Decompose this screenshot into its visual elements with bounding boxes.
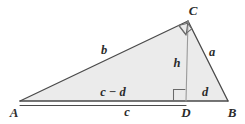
segment-label-c: c (124, 106, 130, 119)
vertex-label-b: B (228, 106, 237, 119)
altitude-label-h: h (174, 57, 181, 70)
segment-label-c-minus-d: c − d (100, 86, 126, 99)
segment-label-d: d (202, 86, 208, 99)
side-label-b: b (101, 44, 107, 57)
side-label-a: a (209, 46, 215, 59)
geometry-diagram: A B C D b a h c − d c d (0, 0, 245, 124)
vertex-label-c: C (189, 4, 198, 17)
triangle-figure-svg (0, 0, 245, 124)
vertex-label-d: D (181, 106, 190, 119)
vertex-label-a: A (10, 106, 19, 119)
